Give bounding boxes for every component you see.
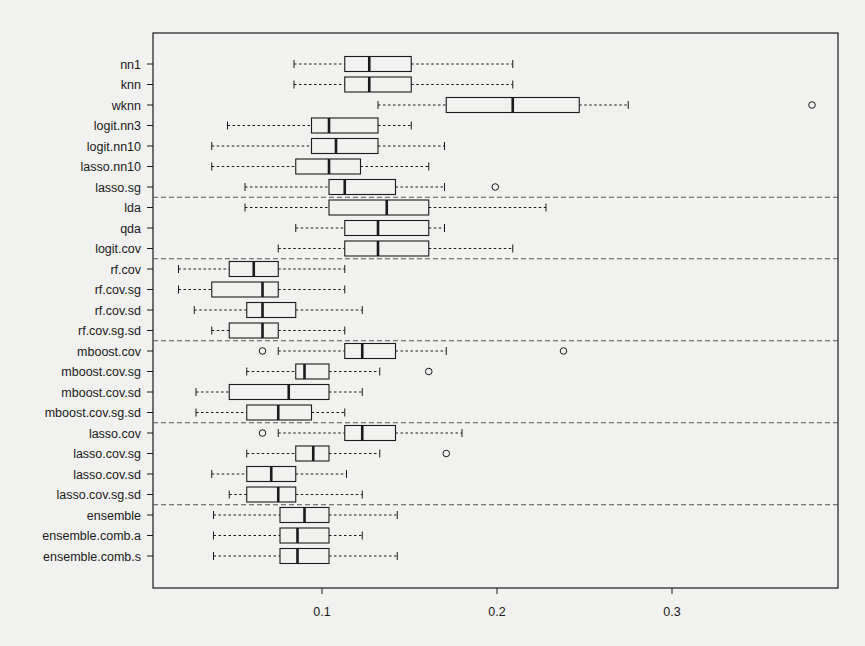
y-tick-label: wknn [111,99,141,113]
y-tick-label: lasso.cov [89,427,142,441]
box-mboost-cov-sg-sd: mboost.cov.sg.sd [45,405,345,420]
box-mboost-cov-sg: mboost.cov.sg [61,364,432,379]
y-tick-label: ensemble [87,509,141,523]
box-nn1: nn1 [120,57,513,72]
y-tick-label: ensemble.comb.a [42,529,141,543]
y-tick-label: rf.cov.sg.sd [78,324,141,338]
y-tick-label: lda [124,201,141,215]
box-lasso-cov-sd: lasso.cov.sd [73,467,346,482]
y-tick-label: lasso.sg [95,181,141,195]
y-tick-label: lasso.cov.sg.sd [56,488,141,502]
box-mboost-cov-sd: mboost.cov.sd [61,385,362,400]
box-lda: lda [124,200,546,215]
box-logit-nn10: logit.nn10 [87,139,445,154]
box-logit-nn3: logit.nn3 [94,118,412,133]
iqr-box [329,200,429,215]
y-tick-label: mboost.cov [77,345,142,359]
x-tick-label: 0.1 [313,605,330,619]
box-logit-cov: logit.cov [95,241,513,256]
y-tick-label: rf.cov [110,263,141,277]
y-tick-label: logit.nn3 [94,119,141,133]
iqr-box [345,221,429,236]
outlier-point [425,368,432,375]
x-tick-label: 0.3 [663,605,680,619]
iqr-box [247,487,296,502]
y-tick-label: logit.cov [95,242,142,256]
y-tick-label: rf.cov.sg [95,283,141,297]
iqr-box [345,77,412,92]
plot-area: 0.10.20.3nn1knnwknnlogit.nn3logit.nn10la… [0,0,865,646]
y-tick-label: mboost.cov.sg.sd [45,406,141,420]
iqr-box [312,139,379,154]
box-rf-cov-sg: rf.cov.sg [95,282,345,297]
iqr-box [212,282,279,297]
iqr-box [345,426,396,441]
box-ensemble: ensemble [87,508,397,523]
plot-frame [153,33,838,588]
y-tick-label: mboost.cov.sd [61,386,141,400]
box-ensemble-comb-a: ensemble.comb.a [42,528,362,543]
iqr-box [345,344,396,359]
y-tick-label: rf.cov.sd [95,304,141,318]
outlier-point [443,450,450,457]
box-rf-cov: rf.cov [110,262,344,277]
y-tick-label: logit.nn10 [87,140,141,154]
iqr-box [229,385,329,400]
x-tick-label: 0.2 [488,605,505,619]
box-lasso-nn10: lasso.nn10 [81,159,429,174]
iqr-box [280,549,329,564]
box-qda: qda [120,221,444,236]
iqr-box [229,323,278,338]
y-tick-label: lasso.cov.sd [73,468,141,482]
iqr-box [296,364,329,379]
y-tick-label: lasso.cov.sg [73,447,141,461]
iqr-box [345,241,429,256]
box-lasso-cov: lasso.cov [89,426,462,441]
outlier-point [259,348,266,355]
box-lasso-cov-sg: lasso.cov.sg [73,446,449,461]
boxplot-chart: 0.10.20.3nn1knnwknnlogit.nn3logit.nn10la… [0,0,865,646]
y-tick-label: mboost.cov.sg [61,365,141,379]
outlier-point [492,184,499,191]
box-mboost-cov: mboost.cov [77,344,567,359]
box-rf-cov-sg-sd: rf.cov.sg.sd [78,323,345,338]
box-lasso-cov-sg-sd: lasso.cov.sg.sd [56,487,362,502]
iqr-box [329,180,396,195]
iqr-box [280,528,329,543]
outlier-point [560,348,567,355]
box-wknn: wknn [111,98,815,113]
box-knn: knn [121,77,513,92]
y-tick-label: nn1 [120,58,141,72]
outlier-point [259,430,266,437]
box-lasso-sg: lasso.sg [95,180,498,195]
iqr-box [345,57,412,72]
y-tick-label: qda [120,222,141,236]
box-rf-cov-sd: rf.cov.sd [95,303,363,318]
y-tick-label: lasso.nn10 [81,160,142,174]
y-tick-label: knn [121,78,141,92]
box-ensemble-comb-s: ensemble.comb.s [43,549,397,564]
y-tick-label: ensemble.comb.s [43,550,141,564]
outlier-point [809,102,816,109]
iqr-box [312,118,379,133]
iqr-box [247,303,296,318]
